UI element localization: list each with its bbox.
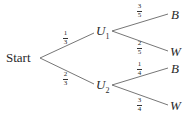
prob-u2-b: 14	[137, 61, 142, 77]
numerator: 3	[138, 3, 142, 10]
prob-start-u1: 13	[63, 30, 68, 46]
numerator: 2	[64, 71, 68, 78]
node-u1-letter: U	[96, 23, 105, 38]
numerator: 3	[138, 97, 142, 104]
numerator: 1	[138, 61, 142, 68]
denominator: 4	[138, 106, 142, 113]
outcome-u1-b: B	[171, 8, 179, 21]
denominator: 3	[64, 80, 68, 87]
node-u1-sub: 1	[105, 32, 109, 41]
numerator: 1	[64, 30, 68, 37]
denominator: 5	[138, 49, 142, 56]
prob-u1-b: 35	[137, 3, 142, 19]
node-u1: U1	[96, 24, 109, 41]
node-u2: U2	[96, 78, 109, 95]
outcome-u2-w: W	[170, 99, 181, 112]
numerator: 2	[138, 40, 142, 47]
node-u2-sub: 2	[105, 86, 109, 95]
prob-start-u2: 23	[63, 71, 68, 87]
prob-u1-w: 25	[137, 40, 142, 56]
node-u2-letter: U	[96, 77, 105, 92]
outcome-u1-w: W	[170, 45, 181, 58]
denominator: 5	[138, 12, 142, 19]
denominator: 4	[138, 70, 142, 77]
prob-u2-w: 34	[137, 97, 142, 113]
denominator: 3	[64, 39, 68, 46]
start-node: Start	[6, 51, 31, 64]
outcome-u2-b: B	[171, 62, 179, 75]
